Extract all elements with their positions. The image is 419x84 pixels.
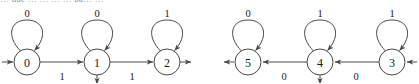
automata-canvas: 1 1 0 0 1 0 1 [0,0,419,83]
self-loop-state-0 [12,20,43,51]
state-node-1[interactable]: 1 [84,49,110,75]
self-loop-state-5 [233,20,264,51]
self-loop-label-state-3: 1 [389,8,394,19]
state-label-0: 0 [24,56,30,70]
automata-figure: … que … … … … pa… … 1 1 0 [0,0,419,83]
right-automaton: 0 0 0 1 1 5 4 [224,8,417,84]
state-label-5: 5 [245,56,251,70]
state-label-4: 4 [317,56,323,70]
self-loop-state-4 [305,20,336,51]
left-automaton: 1 1 0 0 1 0 1 [2,8,191,84]
transition-label-4-to-5: 0 [281,71,286,82]
state-node-0[interactable]: 0 [14,49,40,75]
self-loop-state-1 [82,20,113,51]
self-loop-state-3 [377,20,408,51]
self-loop-state-2 [152,20,183,51]
state-node-3[interactable]: 3 [379,49,405,75]
state-node-4[interactable]: 4 [307,49,333,75]
state-node-5[interactable]: 5 [235,49,261,75]
transition-label-0-to-1: 1 [59,71,64,82]
state-label-2: 2 [164,56,170,70]
transition-label-3-to-4: 0 [353,71,358,82]
state-node-2[interactable]: 2 [154,49,180,75]
self-loop-label-state-0: 0 [24,8,29,19]
self-loop-label-state-2: 1 [164,8,169,19]
state-label-3: 3 [389,56,395,70]
state-label-1: 1 [94,56,100,70]
self-loop-label-state-5: 0 [245,8,250,19]
transition-label-1-to-2: 1 [129,71,134,82]
self-loop-label-state-1: 0 [94,8,99,19]
self-loop-label-state-4: 1 [317,8,322,19]
